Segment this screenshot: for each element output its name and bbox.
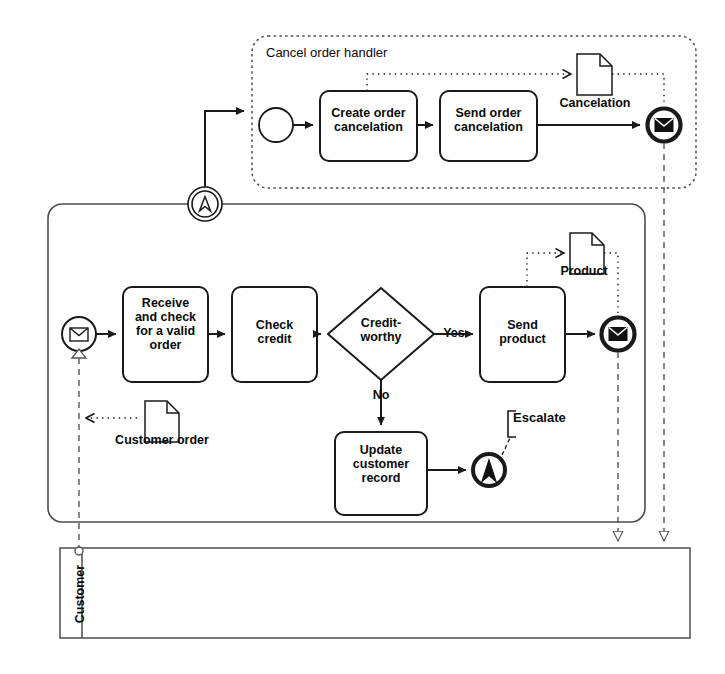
escalation-to-subprocess-flow: [205, 111, 244, 187]
create-order-cancelation-label: Create order cancelation: [320, 106, 417, 134]
cancel-message-end-event-shape: [648, 109, 681, 142]
product-message-end-event-shape: [602, 318, 635, 351]
cancel-start-event-shape: [259, 108, 293, 142]
cancelation-data-object-label: Cancelation: [545, 96, 645, 110]
flow-label-no: No: [363, 388, 399, 402]
send-order-cancelation-label: Send order cancelation: [440, 106, 537, 134]
escalate-annotation-label: Escalate: [513, 411, 603, 426]
cancelation-data-object-shape: [577, 54, 612, 95]
send-product-label: Send product: [480, 318, 565, 346]
check-credit-label: Check credit: [232, 318, 317, 346]
receive-and-check-order-label: Receive and check for a valid order: [123, 296, 208, 352]
customer-pool-label: Customer: [73, 554, 89, 634]
credit-worthy-gateway-label: Credit- worthy: [339, 316, 423, 344]
customer-order-data-object-label: Customer order: [92, 433, 232, 447]
update-customer-record-label: Update customer record: [335, 443, 427, 485]
order-received-start-event-shape: [62, 317, 96, 351]
subprocess-title: Cancel order handler: [266, 46, 486, 61]
escalation-end-event-shape: [473, 454, 505, 486]
bpmn-diagram-canvas: Cancel order handler Create order cancel…: [0, 0, 725, 674]
customer-pool-shape: [60, 548, 690, 638]
flow-label-yes: Yes: [436, 326, 472, 340]
escalation-boundary-event-shape: [188, 187, 222, 221]
product-data-object-label: Product: [534, 264, 634, 278]
